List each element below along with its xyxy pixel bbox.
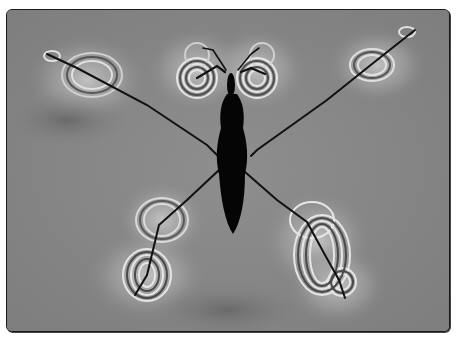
photo-frame — [6, 9, 450, 332]
water-strider-photo — [7, 10, 449, 331]
